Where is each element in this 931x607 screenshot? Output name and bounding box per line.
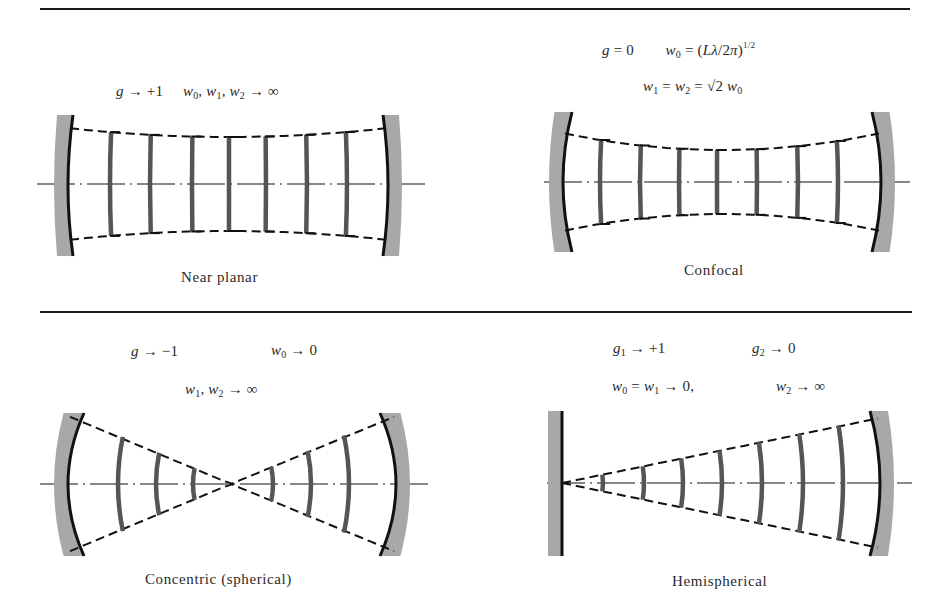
w-symbol: w (185, 381, 195, 397)
concentric-equation-w0: w0 → 0 (271, 342, 317, 359)
hemispherical-equation-w2: w2 → ∞ (776, 378, 825, 395)
confocal-caption: Confocal (684, 262, 744, 279)
hemispherical-wavefront-3 (681, 458, 683, 507)
superscript: 1/2 (743, 40, 755, 50)
pi-symbol: π (730, 42, 738, 58)
concentric-equation-line2: w1, w2 → ∞ (185, 381, 258, 398)
eq-part: → −1 (139, 343, 178, 359)
hemispherical-wavefront-4 (719, 450, 722, 515)
w-symbol: w (644, 378, 654, 394)
eq-part: → 0 (765, 340, 796, 356)
eq-part: → +1 (124, 83, 163, 99)
hemispherical-left-mirror-substrate (548, 411, 562, 556)
w-symbol: w (612, 378, 622, 394)
g-symbol: g (116, 83, 124, 99)
eq-part: → ∞ (245, 83, 279, 99)
hemispherical-wavefront-1 (602, 475, 603, 492)
hemispherical-equation-w0w1: w0 = w1 → 0, (612, 378, 694, 395)
near-planar-wavefront-2 (150, 135, 151, 233)
eq-part: = √2 (690, 78, 727, 94)
g-symbol: g (752, 340, 760, 356)
concentric-caption: Concentric (spherical) (145, 571, 292, 588)
eq-part: → 0 (286, 342, 317, 358)
concentric-equation-line1: g → −1 (131, 343, 178, 360)
confocal-wavefront-2 (640, 145, 641, 218)
hemispherical-caption: Hemispherical (672, 573, 767, 590)
w-symbol: w (183, 83, 193, 99)
near-planar-wavefront-1 (110, 132, 111, 236)
hemispherical-wavefront-7 (839, 426, 843, 541)
w-symbol: w (727, 78, 737, 94)
w-symbol: w (776, 378, 786, 394)
eq-part: → 0, (659, 378, 694, 394)
g-symbol: g (602, 42, 610, 58)
w-symbol: w (208, 381, 218, 397)
near-planar-caption: Near planar (181, 269, 258, 286)
concentric-wavefront-3 (193, 468, 195, 500)
g-symbol: g (131, 343, 139, 359)
eq-part: → +1 (626, 340, 665, 356)
eq-part: = ( (681, 42, 703, 58)
confocal-equation-line2: w1 = w2 = √2 w0 (643, 78, 742, 95)
confocal-wavefront-7 (837, 141, 838, 223)
confocal-wavefront-6 (797, 146, 798, 218)
eq-part: , (222, 83, 230, 99)
hemispherical-equation-g1: g1 → +1 (613, 340, 665, 357)
confocal-beam-lower-edge (565, 214, 879, 231)
eq-part: = (627, 378, 644, 394)
g-symbol: g (613, 340, 621, 356)
concentric-wavefront-4 (271, 467, 273, 502)
hemispherical-equation-g2: g2 → 0 (752, 340, 796, 357)
eq-part: → ∞ (224, 381, 258, 397)
eq-part: /2 (718, 42, 730, 58)
subscript: 0 (737, 85, 742, 96)
w-symbol: w (643, 78, 653, 94)
w-symbol: w (675, 78, 685, 94)
confocal-equation-line1: g = 0 w0 = (Lλ/2π)1/2 (602, 42, 755, 59)
confocal-wavefront-1 (600, 140, 601, 224)
l-lambda-symbol: Lλ (703, 42, 718, 58)
near-planar-wavefront-7 (346, 132, 347, 236)
eq-part: → ∞ (791, 378, 825, 394)
confocal-beam-upper-edge (565, 133, 879, 150)
eq-part: = 0 (610, 42, 634, 58)
w-symbol: w (271, 342, 281, 358)
near-planar-equation: g → +1 w0, w1, w2 → ∞ (116, 83, 279, 100)
w-symbol: w (206, 83, 216, 99)
w-symbol: w (230, 83, 240, 99)
near-planar-wavefront-6 (306, 135, 307, 233)
eq-part: = (658, 78, 675, 94)
w-symbol: w (666, 42, 676, 58)
hemispherical-wavefront-2 (643, 466, 644, 500)
